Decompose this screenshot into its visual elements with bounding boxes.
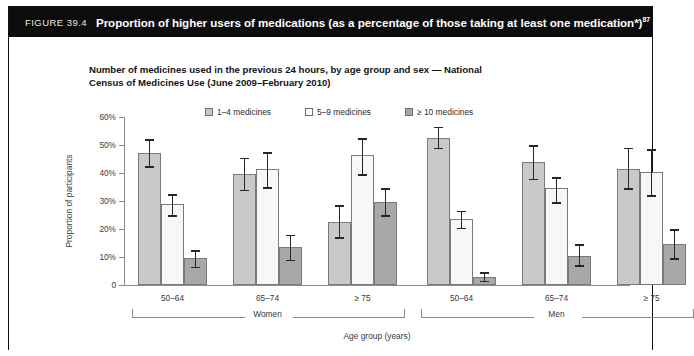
error-bar-cap-upper	[191, 250, 200, 252]
error-bar-cap-upper	[286, 235, 295, 237]
x-axis-line	[124, 285, 630, 286]
error-bar-stem	[556, 177, 558, 202]
error-bar-cap-lower	[434, 148, 443, 150]
error-bar-cap-lower	[358, 174, 367, 176]
legend-label-series-1: 1–4 medicines	[217, 107, 271, 117]
x-axis-title: Age group (years)	[343, 331, 410, 341]
y-axis-tick	[119, 201, 124, 202]
supergroup-label-women: Women	[253, 309, 282, 319]
bar-1-4	[427, 138, 450, 285]
error-bar-cap-upper	[263, 152, 272, 154]
x-axis-category-label: 65–74	[256, 293, 279, 303]
error-bar-stem	[461, 211, 463, 228]
error-bar-stem	[385, 188, 387, 215]
error-bar-cap-lower	[263, 187, 272, 189]
legend-label-series-2: 5–9 medicines	[317, 107, 371, 117]
bracket-line-right	[582, 317, 694, 318]
y-axis-tick-label: 50%	[99, 140, 116, 150]
y-axis-tick	[119, 173, 124, 174]
error-bar-cap-upper	[480, 272, 489, 274]
error-bar-cap-lower	[529, 179, 538, 181]
error-bar-cap-lower	[168, 215, 177, 217]
y-axis-tick-label: 20%	[99, 224, 116, 234]
error-bar-cap-upper	[647, 149, 656, 151]
error-bar-cap-lower	[624, 188, 633, 190]
y-axis-line	[124, 117, 125, 285]
error-bar-cap-lower	[480, 281, 489, 283]
error-bar-cap-lower	[335, 237, 344, 239]
y-axis-tick	[119, 257, 124, 258]
error-bar-cap-upper	[552, 177, 561, 179]
error-bar-cap-lower	[191, 267, 200, 269]
figure-title-superscript: 87	[642, 16, 650, 23]
bracket-line-left	[422, 317, 534, 318]
error-bar-cap-lower	[670, 258, 679, 260]
error-bar-stem	[651, 149, 653, 195]
y-axis-tick	[119, 229, 124, 230]
y-axis-tick-label: 10%	[99, 252, 116, 262]
y-axis-title: Proportion of participants	[64, 154, 74, 247]
bar-1-1	[138, 153, 161, 285]
chart-body: Number of medicines used in the previous…	[9, 37, 652, 350]
x-axis-category-label: 50–64	[161, 293, 184, 303]
error-bar-cap-upper	[145, 139, 154, 141]
y-axis-tick-label: 30%	[99, 196, 116, 206]
error-bar-cap-upper	[358, 138, 367, 140]
error-bar-cap-lower	[575, 265, 584, 267]
error-bar-stem	[267, 152, 269, 187]
x-axis-category-label: 65–74	[545, 293, 568, 303]
error-bar-stem	[339, 205, 341, 237]
supergroup-label-men: Men	[548, 309, 564, 319]
chart-legend: 1–4 medicines 5–9 medicines ≥ 10 medicin…	[205, 107, 473, 117]
error-bar-cap-lower	[240, 190, 249, 192]
bracket-line-right	[293, 317, 405, 318]
figure-container: FIGURE 39.4 Proportion of higher users o…	[8, 6, 653, 350]
error-bar-cap-upper	[168, 194, 177, 196]
chart-title: Number of medicines used in the previous…	[89, 63, 519, 89]
y-axis-tick-label: 0	[111, 280, 116, 290]
error-bar-stem	[290, 235, 292, 260]
error-bar-stem	[628, 148, 630, 189]
legend-item-10-plus-medicines: ≥ 10 medicines	[405, 107, 473, 117]
error-bar-stem	[438, 127, 440, 148]
legend-swatch-icon-series-1	[205, 108, 213, 116]
error-bar-cap-lower	[457, 228, 466, 230]
error-bar-stem	[244, 158, 246, 190]
error-bar-stem	[172, 194, 174, 215]
error-bar-stem	[149, 139, 151, 166]
error-bar-cap-upper	[575, 244, 584, 246]
error-bar-cap-upper	[381, 188, 390, 190]
y-axis-tick	[119, 117, 124, 118]
error-bar-cap-upper	[529, 145, 538, 147]
legend-label-series-3: ≥ 10 medicines	[417, 107, 473, 117]
figure-title: Proportion of higher users of medication…	[96, 16, 650, 29]
x-axis-category-label: ≥ 75	[643, 293, 659, 303]
error-bar-cap-upper	[240, 158, 249, 160]
error-bar-cap-upper	[434, 127, 443, 129]
legend-item-1-4-medicines: 1–4 medicines	[205, 107, 271, 117]
bracket-line-left	[133, 317, 245, 318]
y-axis-tick	[119, 285, 124, 286]
figure-header: FIGURE 39.4 Proportion of higher users o…	[9, 7, 652, 37]
figure-title-text: Proportion of higher users of medication…	[96, 16, 642, 29]
x-axis-category-label: ≥ 75	[354, 293, 370, 303]
error-bar-stem	[533, 145, 535, 179]
error-bar-cap-upper	[624, 148, 633, 150]
error-bar-stem	[674, 229, 676, 258]
error-bar-cap-upper	[335, 205, 344, 207]
plot-area: Proportion of participants Age group (ye…	[124, 117, 630, 285]
legend-item-5-9-medicines: 5–9 medicines	[305, 107, 371, 117]
error-bar-cap-lower	[286, 260, 295, 262]
y-axis-tick	[119, 145, 124, 146]
error-bar-cap-lower	[647, 195, 656, 197]
error-bar-stem	[579, 244, 581, 265]
legend-swatch-icon-series-3	[405, 108, 413, 116]
figure-number: FIGURE 39.4	[25, 17, 87, 28]
error-bar-stem	[195, 250, 197, 267]
error-bar-stem	[362, 138, 364, 174]
y-axis-tick-label: 60%	[99, 112, 116, 122]
legend-swatch-icon-series-2	[305, 108, 313, 116]
y-axis-tick-label: 40%	[99, 168, 116, 178]
error-bar-cap-lower	[552, 202, 561, 204]
x-axis-category-label: 50–64	[450, 293, 473, 303]
